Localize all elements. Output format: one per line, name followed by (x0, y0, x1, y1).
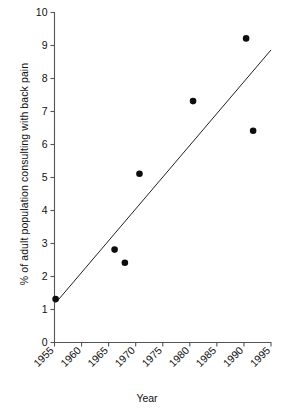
data-point (111, 246, 118, 253)
x-axis-tick-labels: 195519601965197019751980198519901995 (31, 344, 273, 369)
y-tick-label: 2 (42, 270, 48, 282)
x-axis-title: Year (0, 392, 294, 404)
y-tick-label: 7 (42, 105, 48, 117)
y-tick-label: 10 (36, 6, 48, 18)
scatter-plot-canvas: 012345678910 195519601965197019751980198… (0, 0, 294, 414)
data-point (190, 98, 197, 105)
y-tick-label: 4 (42, 204, 48, 216)
x-tick-label: 1990 (220, 344, 245, 369)
y-tick-label: 3 (42, 237, 48, 249)
y-axis-tick-marks (51, 13, 55, 343)
x-tick-label: 1985 (193, 344, 218, 369)
x-tick-label: 1955 (31, 344, 56, 369)
chart-figure: % of adult population consulting with ba… (0, 0, 294, 414)
y-tick-label: 1 (42, 303, 48, 315)
x-tick-label: 1995 (247, 344, 272, 369)
y-tick-label: 5 (42, 171, 48, 183)
data-point (250, 128, 257, 135)
x-tick-label: 1980 (166, 344, 191, 369)
x-tick-label: 1970 (112, 344, 137, 369)
data-point-group (52, 35, 256, 302)
y-axis-tick-labels: 012345678910 (36, 6, 48, 348)
data-point (52, 296, 59, 303)
data-point (136, 170, 143, 177)
x-tick-label: 1975 (139, 344, 164, 369)
y-tick-label: 9 (42, 39, 48, 51)
data-point (122, 260, 129, 267)
data-point (243, 35, 250, 42)
x-tick-label: 1960 (58, 344, 83, 369)
x-tick-label: 1965 (85, 344, 110, 369)
y-tick-label: 8 (42, 72, 48, 84)
trend-line-group (56, 50, 271, 302)
y-tick-label: 6 (42, 138, 48, 150)
trend-line (56, 50, 271, 302)
